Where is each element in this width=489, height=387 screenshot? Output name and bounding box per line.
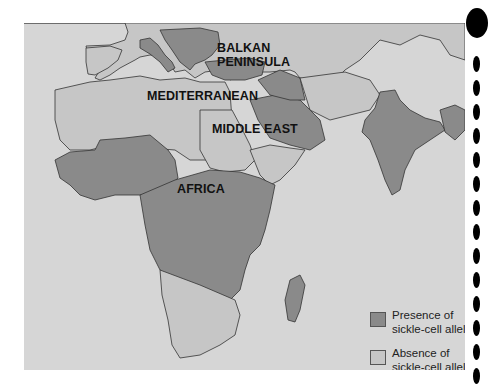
legend-presence-line2: sickle-cell allele	[392, 322, 465, 336]
label-middle-east: MIDDLE EAST	[212, 122, 298, 136]
label-balkan-peninsula-line2: PENINSULA	[217, 55, 290, 69]
legend-presence-line1: Presence of	[392, 308, 465, 322]
presence-swatch-icon	[370, 312, 386, 327]
absence-swatch-icon	[370, 350, 386, 365]
legend-absence-line2: sickle-cell allele	[392, 360, 465, 370]
label-mediterranean: MEDITERRANEAN	[147, 89, 258, 103]
legend-label-absence: Absence of sickle-cell allele	[392, 346, 465, 370]
binder-hole-icon	[466, 8, 488, 38]
label-balkan-peninsula-line1: BALKAN	[217, 41, 270, 55]
sickle-cell-map: BALKAN PENINSULA MEDITERRANEAN MIDDLE EA…	[24, 23, 465, 370]
legend-label-presence: Presence of sickle-cell allele	[392, 308, 465, 336]
label-africa: AFRICA	[177, 182, 225, 196]
legend-absence-line1: Absence of	[392, 346, 465, 360]
